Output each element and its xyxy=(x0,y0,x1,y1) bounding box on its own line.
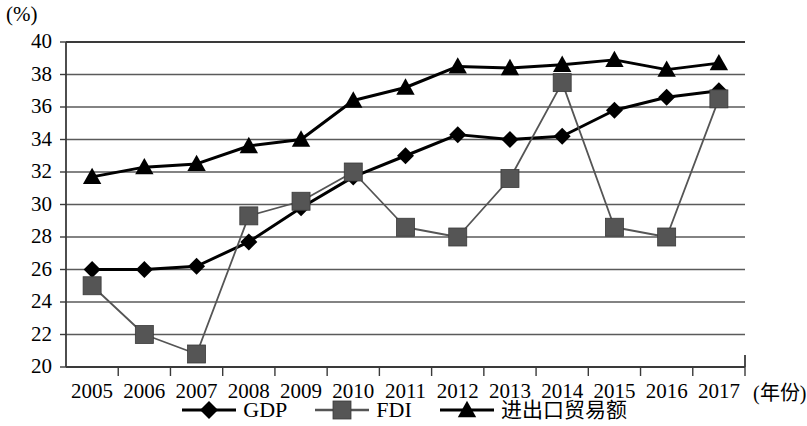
y-axis-tick-label: 24 xyxy=(8,291,52,312)
data-point-marker xyxy=(84,261,101,278)
legend-label: FDI xyxy=(376,399,411,421)
y-axis-tick-label: 22 xyxy=(8,324,52,345)
data-point-marker xyxy=(501,131,518,148)
series-fdi xyxy=(83,74,728,363)
legend-label: GDP xyxy=(243,399,287,421)
data-point-marker xyxy=(135,326,153,344)
data-point-marker xyxy=(501,170,519,188)
legend-marker-triangle-icon xyxy=(438,398,496,422)
data-point-marker xyxy=(710,90,728,108)
y-axis-tick-label: 20 xyxy=(8,356,52,377)
data-point-marker xyxy=(83,277,101,295)
data-series-layer xyxy=(83,51,728,363)
data-point-marker xyxy=(554,128,571,145)
data-point-marker xyxy=(344,163,362,181)
chart-legend: GDPFDI进出口贸易额 xyxy=(0,398,807,422)
data-point-marker xyxy=(188,258,205,275)
data-point-marker xyxy=(240,207,258,225)
data-point-marker xyxy=(292,192,310,210)
line-chart-figure: (%) 4038363432302826242220 2005200620072… xyxy=(0,0,807,426)
data-point-marker xyxy=(188,345,206,363)
y-axis-tick-label: 38 xyxy=(8,64,52,85)
data-point-marker xyxy=(658,89,675,106)
data-point-marker xyxy=(292,130,310,146)
y-axis-tick-label: 32 xyxy=(8,161,52,182)
series-line xyxy=(92,91,719,270)
y-axis-unit-label: (%) xyxy=(6,2,37,27)
legend-item[interactable]: FDI xyxy=(313,398,411,422)
y-axis-tick-label: 30 xyxy=(8,194,52,215)
legend-marker-square-icon xyxy=(313,398,371,422)
data-point-marker xyxy=(449,126,466,143)
y-axis-tick-label: 26 xyxy=(8,259,52,280)
plot-canvas xyxy=(0,0,807,426)
legend-item[interactable]: GDP xyxy=(180,398,287,422)
data-point-marker xyxy=(606,102,623,119)
data-point-marker xyxy=(136,261,153,278)
data-point-marker xyxy=(397,147,414,164)
y-axis-tick-label: 40 xyxy=(8,31,52,52)
series-gdp xyxy=(84,82,728,278)
legend-item[interactable]: 进出口贸易额 xyxy=(438,398,627,422)
data-point-marker xyxy=(605,218,623,236)
y-axis-tick-label: 28 xyxy=(8,226,52,247)
data-point-marker xyxy=(240,233,257,250)
legend-square-icon xyxy=(333,401,351,419)
data-point-marker xyxy=(553,74,571,92)
legend-marker-diamond-icon xyxy=(180,398,238,422)
legend-label: 进出口贸易额 xyxy=(501,400,627,421)
x-axis-tick-marks xyxy=(118,367,745,376)
legend-diamond-icon xyxy=(200,401,218,419)
data-point-marker xyxy=(397,218,415,236)
data-point-marker xyxy=(658,228,676,246)
y-axis-tick-label: 34 xyxy=(8,129,52,150)
data-point-marker xyxy=(449,228,467,246)
y-axis-tick-label: 36 xyxy=(8,96,52,117)
data-point-marker xyxy=(710,54,728,70)
data-point-marker xyxy=(605,51,623,67)
